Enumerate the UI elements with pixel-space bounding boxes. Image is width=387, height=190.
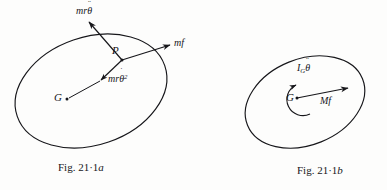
label-mr-theta-dot-squared: mr˙θ2 xyxy=(108,74,127,84)
vector-mf xyxy=(122,45,170,60)
figure-b-group xyxy=(231,39,378,165)
body-outline-b xyxy=(231,39,378,165)
caption-b-prefix: Fig. 21·1 xyxy=(297,164,337,176)
label-mr-theta-ddot: mr¨θ xyxy=(76,6,92,16)
label-point-g-b: G xyxy=(286,92,294,103)
caption-a-prefix: Fig. 21·1 xyxy=(58,161,98,173)
label-point-p: P xyxy=(112,45,119,56)
point-g-marker-a xyxy=(66,98,69,101)
caption-a-suffix: a xyxy=(98,161,104,173)
label-mf: mf xyxy=(174,38,184,48)
body-outline-a xyxy=(0,15,182,168)
label-ig-theta-ddot: IG¨θ xyxy=(297,63,310,75)
figure-page: mr¨θ mf mr˙θ2 P G Fig. 21·1a IG¨θ Mf G F… xyxy=(0,0,387,190)
caption-b-suffix: b xyxy=(337,164,343,176)
caption-fig-21-1b: Fig. 21·1b xyxy=(297,165,343,176)
caption-fig-21-1a: Fig. 21·1a xyxy=(58,162,104,173)
label-Mf: Mf xyxy=(320,96,331,106)
figure-a-group xyxy=(0,15,182,168)
vector-tail-to-g-a xyxy=(69,81,100,98)
label-point-g-a: G xyxy=(54,92,62,103)
